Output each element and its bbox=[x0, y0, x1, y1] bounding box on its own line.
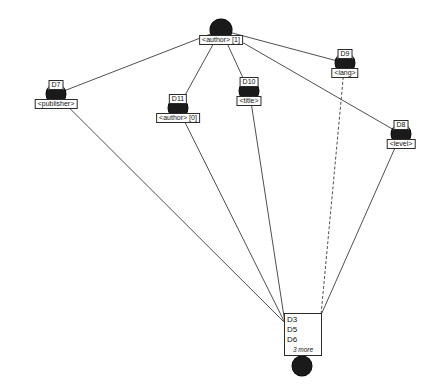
node-tag-label: <lang> bbox=[331, 68, 358, 78]
author-0-node[interactable]: D11<author> [0] bbox=[168, 98, 188, 118]
edge-layer bbox=[0, 0, 437, 391]
node-tag-label: <title> bbox=[236, 96, 261, 106]
collapsed-document-item[interactable]: D3 bbox=[287, 315, 319, 325]
title-node[interactable]: D10<title> bbox=[239, 81, 259, 101]
lang-node[interactable]: D9<lang> bbox=[335, 53, 355, 73]
node-tag-label: <level> bbox=[387, 139, 416, 149]
collapsed-more-label[interactable]: 3 more bbox=[287, 345, 319, 354]
node-id-badge: D10 bbox=[240, 77, 259, 87]
edge-d9-multi[interactable] bbox=[321, 72, 344, 315]
node-id-badge: D7 bbox=[49, 80, 64, 90]
graph-canvas: <author> [1]D7<publisher>D11<author> [0]… bbox=[0, 0, 437, 391]
edge-root-d9[interactable] bbox=[231, 33, 337, 61]
node-tag-label: <publisher> bbox=[35, 99, 78, 109]
root-author-node[interactable]: <author> [1] bbox=[210, 19, 232, 41]
node-circle-icon bbox=[292, 356, 312, 376]
edge-d7-multi[interactable] bbox=[62, 101, 285, 323]
node-tag-label: <author> [1] bbox=[199, 35, 243, 45]
level-node[interactable]: D8<level> bbox=[391, 124, 411, 144]
edge-root-d7[interactable] bbox=[64, 34, 211, 91]
edge-d8-multi[interactable] bbox=[321, 142, 397, 315]
publisher-node[interactable]: D7<publisher> bbox=[46, 84, 66, 104]
node-tag-label: <author> [0] bbox=[156, 113, 200, 123]
node-id-badge: D8 bbox=[394, 120, 409, 130]
collapsed-documents-node[interactable] bbox=[292, 356, 312, 376]
collapsed-document-list[interactable]: D3D5D63 more bbox=[284, 313, 322, 356]
node-id-badge: D9 bbox=[338, 49, 353, 59]
node-id-badge: D11 bbox=[169, 94, 187, 104]
collapsed-document-item[interactable]: D5 bbox=[287, 325, 319, 335]
edge-root-d11[interactable] bbox=[182, 39, 216, 100]
collapsed-document-item[interactable]: D6 bbox=[287, 335, 319, 345]
